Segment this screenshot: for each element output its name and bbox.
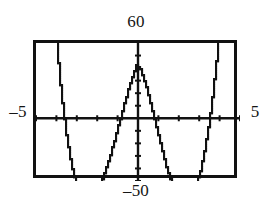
y-axis-group	[135, 43, 141, 181]
curve-pixel	[213, 78, 215, 80]
curve-pixel	[115, 132, 117, 134]
curve-pixel	[141, 74, 143, 76]
curve-pixel	[117, 124, 119, 126]
curve-pixel	[119, 118, 121, 120]
curve-pixel	[63, 118, 65, 120]
curve-pixel	[165, 166, 167, 168]
curve-pixel	[133, 70, 135, 72]
curve-pixel	[145, 86, 147, 88]
curve-pixel	[157, 134, 159, 136]
curve-pixel	[75, 180, 77, 181]
y-min-label: –50	[0, 182, 272, 199]
curve-pixel	[139, 68, 141, 70]
curve-pixel	[105, 166, 107, 168]
curve-pixel	[123, 102, 125, 104]
curve-pixel	[199, 170, 201, 172]
curve-pixel	[161, 150, 163, 152]
y-max-label: 60	[0, 13, 272, 30]
curve-pixel	[153, 118, 155, 120]
curve-pixel	[169, 178, 171, 180]
plot-canvas	[36, 43, 240, 181]
curve-pixel	[205, 138, 207, 140]
curve-pixel	[143, 80, 145, 82]
curve-pixel	[203, 150, 205, 152]
curve-pixel	[69, 158, 71, 160]
curve-pixel	[121, 110, 123, 112]
curve-pixel	[201, 160, 203, 162]
curve-pixel	[155, 126, 157, 128]
curve-pixel	[147, 94, 149, 96]
curve-pixel	[71, 168, 73, 170]
curve-pixel	[127, 88, 129, 90]
curve-pixel	[209, 112, 211, 114]
curve-pixel	[171, 180, 173, 181]
x-max-label: 5	[243, 103, 267, 120]
curve-pixel	[149, 102, 151, 104]
curve-pixel	[135, 64, 137, 66]
curve-pixel	[159, 142, 161, 144]
curve-pixel	[207, 126, 209, 128]
x-min-label: –5	[4, 103, 32, 120]
curve-pixel	[211, 96, 213, 98]
plot-frame	[33, 40, 237, 178]
curve-pixel	[131, 76, 133, 78]
curve-pixel	[197, 178, 199, 180]
curve-pixel	[101, 178, 103, 180]
curve-pixel	[215, 60, 217, 62]
curve-pixel	[103, 172, 105, 174]
curve-pixel	[151, 110, 153, 112]
curve-pixel	[57, 62, 59, 64]
curve-pixel	[65, 134, 67, 136]
graphing-calculator-screenshot: 60 –50 –5 5	[0, 0, 272, 209]
curve-pixel	[113, 140, 115, 142]
curve-pixel	[163, 158, 165, 160]
curve-pixel	[107, 160, 109, 162]
curve-pixel	[67, 146, 69, 148]
curve-pixel	[73, 176, 75, 178]
curve-pixel	[111, 146, 113, 148]
curve-pixel	[109, 154, 111, 156]
curve-pixel	[129, 82, 131, 84]
curve-pixel	[59, 84, 61, 86]
curve-pixel	[125, 96, 127, 98]
curve-pixel	[217, 43, 219, 44]
curve-pixel	[137, 66, 139, 68]
curve-pixel	[167, 172, 169, 174]
curve-pixel	[61, 102, 63, 104]
